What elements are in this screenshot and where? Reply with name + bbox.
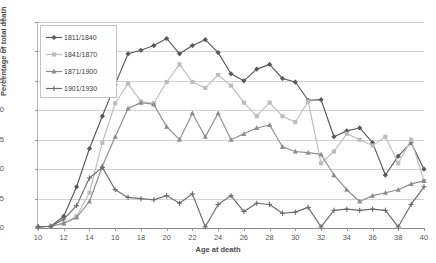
x-axis-tick-label: 26 xyxy=(231,233,257,242)
x-axis-tick-label: 14 xyxy=(76,233,102,242)
legend-marker-diamond-icon xyxy=(44,32,64,43)
x-axis-tick xyxy=(270,228,271,231)
legend-item-1[interactable]: 1811/1840 xyxy=(41,29,116,46)
legend-label: 1901/1930 xyxy=(64,85,97,92)
legend-marker-square-icon xyxy=(44,49,64,60)
y-axis-tick-label: 15 xyxy=(0,136,4,144)
x-axis-tick xyxy=(115,228,116,231)
legend-item-3[interactable]: 1871/1900 xyxy=(41,63,116,80)
x-axis-tick-label: 34 xyxy=(334,233,360,242)
x-axis-tick-label: 36 xyxy=(360,233,386,242)
y-axis-tick-label: 0 xyxy=(0,224,4,232)
x-axis-tick-label: 24 xyxy=(205,233,231,242)
x-axis-tick-label: 40 xyxy=(411,233,436,242)
legend-item-2[interactable]: 1841/1870 xyxy=(41,46,116,63)
legend: 1811/18401841/18701871/19001901/1930 xyxy=(40,25,117,98)
x-axis-title: Age at death xyxy=(0,245,436,254)
y-axis-title: Percentage of total death xyxy=(0,6,8,96)
x-axis-tick xyxy=(192,228,193,231)
x-axis-tick-label: 20 xyxy=(154,233,180,242)
y-axis-tick-label: 20 xyxy=(0,106,4,114)
x-axis-tick-label: 38 xyxy=(385,233,411,242)
y-axis-tick-label: 10 xyxy=(0,165,4,173)
series-4 xyxy=(35,165,426,230)
x-axis-tick xyxy=(218,228,219,231)
x-axis-tick-label: 10 xyxy=(25,233,51,242)
x-axis-tick xyxy=(373,228,374,231)
legend-marker-cross-icon xyxy=(44,83,64,94)
x-axis-tick xyxy=(89,228,90,231)
x-axis-tick xyxy=(64,228,65,231)
cropped-title-text xyxy=(0,0,436,9)
x-axis-tick xyxy=(244,228,245,231)
x-axis-tick-label: 28 xyxy=(257,233,283,242)
legend-label: 1841/1870 xyxy=(64,51,97,58)
legend-label: 1871/1900 xyxy=(64,68,97,75)
legend-marker-triangle-icon xyxy=(44,66,64,77)
x-axis-tick-label: 32 xyxy=(308,233,334,242)
x-axis-tick xyxy=(167,228,168,231)
x-axis-tick-label: 22 xyxy=(179,233,205,242)
x-axis-tick-label: 18 xyxy=(128,233,154,242)
legend-label: 1811/1840 xyxy=(64,34,97,41)
x-axis-tick xyxy=(141,228,142,231)
legend-item-4[interactable]: 1901/1930 xyxy=(41,80,116,97)
x-axis-tick-label: 30 xyxy=(282,233,308,242)
x-axis-tick xyxy=(295,228,296,231)
x-axis-tick xyxy=(347,228,348,231)
chart-screenshot: 05101520253035 1012141618202224262830323… xyxy=(0,0,436,263)
x-axis-tick xyxy=(424,228,425,231)
gridline xyxy=(38,228,424,229)
x-axis-tick-label: 12 xyxy=(51,233,77,242)
x-axis-tick-label: 16 xyxy=(102,233,128,242)
y-axis-tick-label: 5 xyxy=(0,195,4,203)
